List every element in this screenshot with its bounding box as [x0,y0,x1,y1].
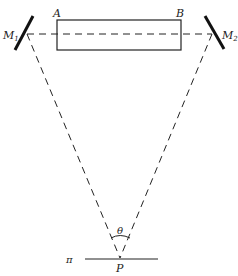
beam-right [120,34,212,258]
tube-rectangle [57,20,181,50]
label-p: P [115,262,124,275]
mirror-m1 [15,16,33,50]
label-pi: π [65,254,73,265]
label-b: B [175,7,184,20]
label-a: A [52,7,61,20]
label-theta: θ [117,225,123,236]
diagram-canvas: A B M1 M2 θ P π [0,0,238,276]
label-m1: M1 [2,29,19,43]
label-m2: M2 [221,29,238,43]
beam-left [27,34,120,258]
interferometer-diagram: A B M1 M2 θ P π [0,0,238,276]
